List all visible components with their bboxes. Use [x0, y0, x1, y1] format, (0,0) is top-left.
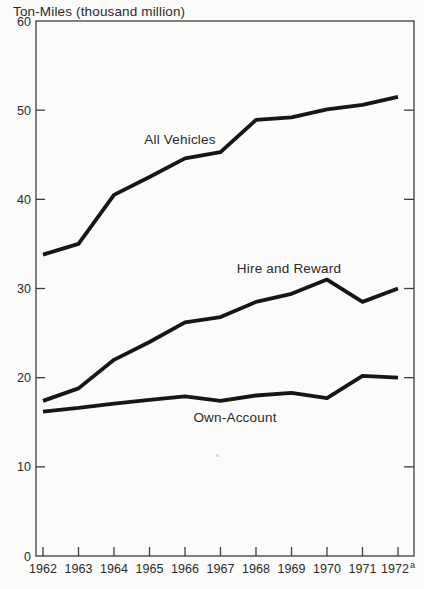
chart-plot: 0102030405060196219631964196519661967196… [0, 0, 424, 589]
y-axis-tick-label: 30 [17, 282, 31, 296]
x-axis-tick-label: 1965 [136, 562, 164, 576]
y-axis-tick-label: 20 [17, 371, 31, 385]
series-line-all-vehicles [43, 97, 398, 255]
chart-page: Ton-Miles (thousand million) 01020304050… [0, 0, 424, 589]
x-axis-tick-label: 1968 [242, 562, 270, 576]
y-axis-tick-label: 10 [17, 460, 31, 474]
x-axis-tick-label: 1971 [349, 562, 377, 576]
x-axis-tick-label: 1970 [313, 562, 341, 576]
scan-artifact-dot [216, 454, 219, 457]
x-axis-tick-label: 1963 [65, 562, 93, 576]
series-label-all-vehicles: All Vehicles [144, 132, 215, 147]
plot-frame [36, 21, 414, 556]
series-label-hire-and-reward: Hire and Reward [237, 261, 341, 276]
series-line-hire-and-reward [43, 280, 398, 401]
x-axis-tick-label: 1969 [278, 562, 306, 576]
x-label-superscript: a [410, 560, 415, 570]
x-axis-tick-label: 1967 [207, 562, 235, 576]
y-axis-tick-label: 50 [17, 104, 31, 118]
x-axis-tick-label: 1962 [29, 562, 57, 576]
y-axis-tick-label: 60 [17, 15, 31, 29]
series-label-own-account: Own-Account [193, 410, 276, 425]
x-axis-tick-label: 1964 [100, 562, 128, 576]
series-line-own-account [43, 376, 398, 412]
y-axis-tick-label: 40 [17, 193, 31, 207]
x-axis-tick-label: 1972a [381, 560, 415, 576]
x-axis-tick-label: 1966 [171, 562, 199, 576]
